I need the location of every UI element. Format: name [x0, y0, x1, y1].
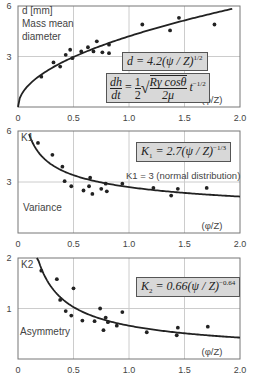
- y-tick-label: 2: [6, 253, 11, 263]
- chart2-side-label: Variance: [23, 202, 62, 213]
- eq2-radicand: Rγ cosθ2μ: [150, 75, 187, 101]
- chart1-equation-box: d = 4.2(ψ / Z)1/2: [122, 52, 208, 71]
- x-tick-label: 2.0: [234, 239, 247, 249]
- data-point: [213, 23, 217, 27]
- data-point: [69, 314, 73, 318]
- x-tick-label: 1.0: [123, 365, 136, 375]
- x-tick-label: 1.0: [123, 239, 136, 249]
- data-point: [95, 39, 99, 43]
- data-point: [90, 192, 94, 196]
- x-tick-label: 0.5: [67, 239, 80, 249]
- data-point: [176, 326, 180, 330]
- data-point: [80, 319, 84, 323]
- x-tick-label: 2.0: [234, 365, 247, 375]
- eq4-k: K: [141, 279, 149, 293]
- data-point: [106, 320, 110, 324]
- data-point: [55, 277, 59, 281]
- data-point: [176, 187, 180, 191]
- data-point: [168, 29, 172, 33]
- y-tick-label: 1: [6, 304, 11, 314]
- data-point: [115, 324, 119, 328]
- data-point: [98, 307, 102, 311]
- data-point: [107, 51, 111, 55]
- eq1-lhs: d: [127, 54, 133, 68]
- chart1-ylabel-line1: d [mm]: [22, 4, 74, 17]
- eq3-rhs: = 2.7(ψ / Z): [156, 144, 214, 158]
- data-point: [99, 187, 103, 191]
- eq2-exponent: −1/2: [193, 80, 206, 88]
- data-point: [39, 269, 43, 273]
- data-point: [120, 310, 124, 314]
- eq4-subscript: 2: [149, 287, 153, 295]
- data-point: [63, 179, 67, 183]
- y-tick-label: 3: [6, 52, 11, 62]
- x-tick-label: 1.5: [178, 113, 191, 123]
- chart2-equation-box: K1 = 2.7(ψ / Z)−1/3: [136, 142, 231, 162]
- x-tick-label: 0: [15, 239, 20, 249]
- data-point: [152, 186, 156, 190]
- data-point: [69, 184, 73, 188]
- x-tick-label: 0.5: [67, 365, 80, 375]
- x-tick-label: 1.5: [178, 365, 191, 375]
- x-axis-label: (φ/Z): [202, 346, 223, 357]
- chart3-side-label: Asymmetry: [20, 326, 70, 337]
- data-point: [92, 50, 96, 54]
- data-point: [177, 16, 181, 20]
- data-point: [104, 316, 108, 320]
- eq1-rhs: = 4.2(ψ / Z): [136, 54, 194, 68]
- data-point: [169, 194, 173, 198]
- eq3-subscript: 1: [149, 152, 153, 160]
- data-point: [107, 43, 111, 47]
- data-point: [87, 184, 91, 188]
- chart3-equation-box: K2 = 0.66(ψ / Z)−0.64: [136, 277, 240, 297]
- chart1-ylabel-line3: diameter: [22, 30, 74, 43]
- data-point: [70, 56, 74, 60]
- x-tick-label: 1.0: [123, 113, 136, 123]
- eq3-exponent: −1/3: [213, 144, 226, 152]
- x-tick-label: 0: [15, 365, 20, 375]
- eq4-rhs: = 0.66(ψ / Z): [156, 279, 220, 293]
- data-point: [120, 182, 124, 186]
- data-point: [206, 325, 210, 329]
- data-point: [205, 186, 209, 190]
- chart1-ylabel-line2: Mass mean: [22, 17, 74, 30]
- eq3-k: K: [141, 144, 149, 158]
- data-point: [64, 309, 68, 313]
- data-point: [72, 286, 76, 290]
- data-point: [86, 45, 90, 49]
- data-point: [82, 189, 86, 193]
- data-point: [93, 319, 97, 323]
- data-point: [36, 141, 40, 145]
- eq1-exponent: 1/2: [194, 54, 203, 62]
- data-point: [175, 333, 179, 337]
- data-point: [58, 65, 62, 69]
- data-point: [88, 176, 92, 180]
- y-tick-label: 6: [6, 126, 11, 136]
- data-point: [58, 298, 62, 302]
- x-axis-label: (φ/Z): [202, 220, 223, 231]
- chart-3: 00.51.01.52.021(φ/Z): [6, 253, 246, 375]
- x-tick-label: 0: [15, 113, 20, 123]
- data-point: [140, 23, 144, 27]
- chart1-ylabel: d [mm] Mass mean diameter: [22, 4, 74, 43]
- eq2-equals: =: [125, 80, 132, 94]
- data-point: [105, 189, 109, 193]
- x-tick-label: 0.5: [67, 113, 80, 123]
- data-point: [68, 48, 72, 52]
- eq2-dh-dt: dhdt: [110, 76, 122, 101]
- data-point: [52, 60, 56, 64]
- chart2-annotation: K1 = 3 (normal distribution): [126, 170, 240, 181]
- y-tick-label: 6: [6, 1, 11, 11]
- data-point: [102, 328, 106, 332]
- data-point: [51, 153, 55, 157]
- data-point: [100, 50, 104, 54]
- data-point: [145, 330, 149, 334]
- chart1-rate-equation-box: dhdt = 12√Rγ cosθ2μ t−1/2: [106, 73, 210, 103]
- chart2-ylabel: K1: [21, 132, 33, 143]
- data-point: [61, 165, 65, 169]
- chart3-ylabel: K2: [21, 259, 33, 270]
- data-point: [104, 182, 108, 186]
- data-point: [64, 53, 68, 57]
- eq4-exponent: −0.64: [219, 279, 235, 287]
- data-point: [79, 50, 83, 54]
